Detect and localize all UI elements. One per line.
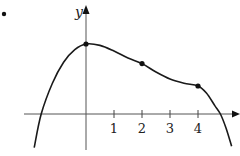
x-tick-label: 2: [138, 121, 146, 136]
x-tick-label: 4: [194, 121, 202, 136]
x-axis-arrow-icon: [232, 111, 240, 118]
graph-figure: y 1234: [0, 0, 240, 156]
marked-point: [83, 41, 88, 46]
x-tick-label: 3: [166, 121, 174, 136]
marked-point: [139, 61, 144, 66]
graph-svg: y 1234: [0, 0, 240, 156]
marked-point: [195, 83, 200, 88]
marked-points: [83, 41, 200, 88]
x-tick-label: 1: [110, 121, 118, 136]
bullet-dot: [2, 12, 6, 16]
y-axis-label: y: [74, 4, 84, 20]
y-axis-arrow-icon: [83, 5, 90, 14]
